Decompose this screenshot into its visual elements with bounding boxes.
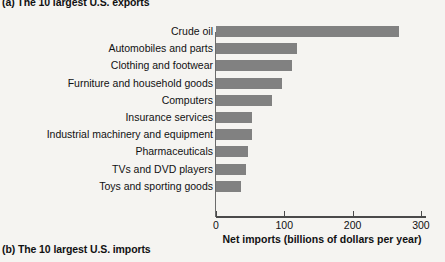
bar-category-label: Industrial machinery and equipment	[47, 127, 213, 142]
bar-category-label: Insurance services	[125, 110, 213, 125]
bar-category-label: Automobiles and parts	[109, 41, 213, 56]
bar-row: Automobiles and parts	[0, 41, 445, 56]
bar-category-label: Furniture and household goods	[68, 76, 213, 91]
x-axis-tick-label: 0	[213, 219, 219, 231]
x-axis-tick	[216, 211, 217, 218]
bar-category-label: Pharmaceuticals	[135, 144, 213, 159]
bar-category-label: Computers	[162, 93, 213, 108]
x-axis-tick	[353, 211, 354, 218]
bar-row: Crude oil	[0, 24, 445, 39]
bar-row: Furniture and household goods	[0, 76, 445, 91]
panel-a-title: (a) The 10 largest U.S. exports	[2, 0, 149, 8]
bar-category-label: TVs and DVD players	[112, 162, 213, 177]
bar-row: Industrial machinery and equipment	[0, 127, 445, 142]
bar-row: Pharmaceuticals	[0, 144, 445, 159]
x-axis-tick-label: 200	[344, 219, 362, 231]
bar	[216, 60, 292, 71]
x-axis-tick-label: 100	[276, 219, 294, 231]
bar	[216, 112, 252, 123]
bar	[216, 129, 252, 140]
bar-row: Computers	[0, 93, 445, 108]
bar-category-label: Clothing and footwear	[111, 58, 213, 73]
bar-row: Toys and sporting goods	[0, 179, 445, 194]
bar-row: Insurance services	[0, 110, 445, 125]
bar	[216, 43, 297, 54]
exports-bar-chart: Crude oilAutomobiles and partsClothing a…	[0, 16, 445, 216]
bar-category-label: Toys and sporting goods	[99, 179, 213, 194]
bar	[216, 26, 399, 37]
x-axis-tick-label: 300	[412, 219, 430, 231]
x-axis-tick	[284, 211, 285, 218]
panel-b-title: (b) The 10 largest U.S. imports	[2, 243, 151, 255]
x-axis-tick	[421, 211, 422, 218]
bar	[216, 146, 248, 157]
bar	[216, 181, 241, 192]
bar-category-label: Crude oil	[171, 24, 213, 39]
x-axis-line	[216, 216, 426, 218]
x-axis-label: Net imports (billions of dollars per yea…	[216, 233, 428, 245]
bar-row: TVs and DVD players	[0, 162, 445, 177]
bar	[216, 78, 282, 89]
bar	[216, 95, 272, 106]
bar-row: Clothing and footwear	[0, 58, 445, 73]
bar	[216, 164, 246, 175]
